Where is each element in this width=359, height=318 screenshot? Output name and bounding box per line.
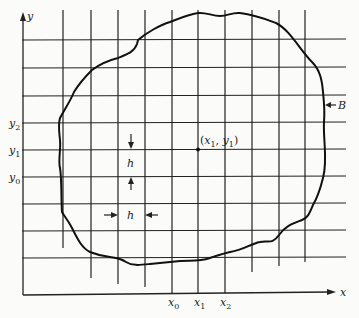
grid-horizontal-line xyxy=(22,257,346,258)
x-axis xyxy=(23,292,330,295)
horizontal-spacing-indicator: h xyxy=(104,209,158,222)
grid-point-x1-y1 xyxy=(196,148,200,152)
right-arrow-icon xyxy=(111,212,118,218)
boundary-curve-B xyxy=(59,13,325,265)
grid-horizontal-line-y1 xyxy=(22,149,346,150)
grid-diagram: y x B (x1, y1) h h y2 y1 y0 x0 xyxy=(0,0,359,318)
y-tick-label-y0: y0 xyxy=(8,171,20,186)
x-axis-arrowhead xyxy=(327,289,336,295)
x-tick-label-x1: x1 xyxy=(194,296,205,311)
grid-horizontal-line-y2 xyxy=(22,122,346,123)
y-tick-label-y2: y2 xyxy=(8,117,20,132)
boundary-label-group: B xyxy=(325,99,346,112)
vertical-spacing-label: h xyxy=(127,157,134,170)
grid-point-label: (x1, y1) xyxy=(200,134,238,149)
y-axis-label: y xyxy=(26,10,34,23)
axes: y x xyxy=(20,10,347,299)
grid-horizontal-line xyxy=(22,95,346,96)
boundary-label: B xyxy=(337,99,346,112)
vertical-spacing-indicator: h xyxy=(127,134,134,190)
x-tick-label-x0: x0 xyxy=(168,296,179,311)
grid-horizontal-line xyxy=(22,230,346,231)
left-arrow-icon xyxy=(145,212,152,218)
grid-horizontal-line xyxy=(22,39,346,40)
y-tick-labels: y2 y1 y0 xyxy=(8,117,20,186)
up-arrow-icon xyxy=(128,177,134,184)
down-arrow-icon xyxy=(128,142,134,149)
horizontal-spacing-label: h xyxy=(127,209,134,222)
x-tick-label-x2: x2 xyxy=(220,296,231,311)
y-axis-arrowhead xyxy=(20,12,26,21)
grid-horizontal-line-y0 xyxy=(22,176,346,177)
x-tick-labels: x0 x1 x2 xyxy=(168,296,231,311)
grid-horizontal-line xyxy=(22,203,346,204)
vertical-grid-lines xyxy=(63,10,305,293)
grid-horizontal-line xyxy=(22,67,346,68)
x-axis-label: x xyxy=(340,286,347,299)
boundary-pointer-arrowhead xyxy=(325,102,331,108)
y-tick-label-y1: y1 xyxy=(8,144,20,159)
